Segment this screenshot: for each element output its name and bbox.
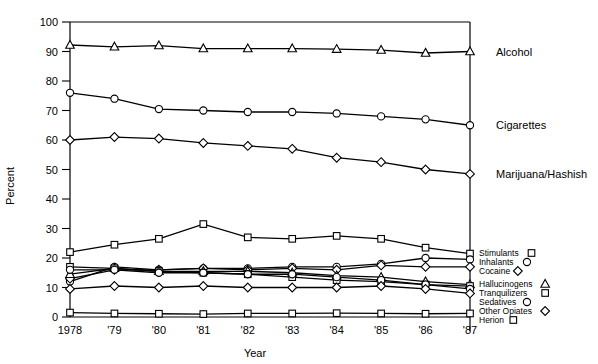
point-sedatives-79: [111, 266, 118, 273]
legend-marker-stimulants: [528, 250, 535, 257]
point-stimulants-83: [289, 236, 296, 243]
point-cigarettes-1978: [66, 89, 73, 96]
point-other-opiates-83: [288, 283, 297, 292]
series-herion: [67, 309, 474, 317]
point-herion-84: [333, 310, 340, 317]
point-marijuana-hashish-1978: [66, 136, 75, 145]
point-inhalants-86: [422, 254, 429, 261]
point-marijuana-hashish-85: [377, 158, 386, 167]
y-tick-label-10: 10: [46, 282, 58, 294]
point-sedatives-82: [244, 271, 251, 278]
point-cocaine-86: [421, 262, 430, 271]
point-sedatives-80: [155, 269, 162, 276]
series-label-alcohol: Alcohol: [496, 46, 532, 58]
series-cigarettes: [66, 89, 473, 129]
line-herion: [70, 313, 470, 314]
legend-item-herion: Herion: [479, 315, 517, 325]
point-marijuana-hashish-83: [288, 144, 297, 153]
point-cigarettes-81: [200, 107, 207, 114]
point-sedatives-1978: [66, 266, 73, 273]
legend-item-cocaine: Cocaine: [479, 266, 522, 276]
point-stimulants-80: [156, 236, 163, 243]
point-sedatives-81: [200, 269, 207, 276]
point-other-opiates-84: [332, 283, 341, 292]
legend-marker-cocaine: [513, 267, 522, 276]
point-stimulants-1978: [67, 249, 74, 256]
point-herion-83: [289, 310, 296, 317]
point-herion-80: [156, 310, 163, 317]
point-other-opiates-81: [199, 282, 208, 291]
legend-marker-hallucinogens: [541, 279, 550, 287]
point-alcohol-80: [155, 41, 164, 49]
y-tick-label-80: 80: [46, 75, 58, 87]
point-alcohol-82: [243, 44, 252, 52]
series-alcohol: [66, 40, 475, 56]
chart-container: 0102030405060708090100 1978'79'80'81'82'…: [0, 0, 598, 364]
point-stimulants-86: [422, 244, 429, 251]
y-tick-label-90: 90: [46, 46, 58, 58]
series-stimulants: [67, 221, 474, 257]
point-marijuana-hashish-80: [154, 134, 163, 143]
point-cigarettes-84: [333, 110, 340, 117]
point-other-opiates-80: [154, 283, 163, 292]
line-chart: 0102030405060708090100 1978'79'80'81'82'…: [0, 0, 598, 364]
point-alcohol-83: [288, 44, 297, 52]
point-cigarettes-85: [378, 113, 385, 120]
point-herion-82: [244, 310, 251, 317]
point-cigarettes-87: [466, 122, 473, 129]
point-sedatives-83: [289, 271, 296, 278]
line-cigarettes: [70, 93, 470, 125]
y-tick-label-70: 70: [46, 105, 58, 117]
x-tick-label-84: '84: [329, 324, 343, 336]
point-marijuana-hashish-87: [466, 170, 475, 179]
point-other-opiates-1978: [66, 285, 75, 294]
legend-marker-inhalants: [523, 258, 530, 265]
point-cigarettes-83: [289, 108, 296, 115]
point-stimulants-82: [244, 234, 251, 241]
point-stimulants-79: [111, 241, 118, 248]
y-tick-label-40: 40: [46, 193, 58, 205]
point-herion-85: [378, 310, 385, 317]
x-tick-label-80: '80: [152, 324, 166, 336]
point-marijuana-hashish-84: [332, 153, 341, 162]
y-tick-label-20: 20: [46, 252, 58, 264]
point-alcohol-1978: [66, 40, 75, 48]
series-marijuana-hashish: [66, 133, 475, 179]
series-label-cigarettes: Cigarettes: [496, 119, 547, 131]
point-sedatives-84: [333, 274, 340, 281]
point-alcohol-87: [466, 47, 475, 55]
x-axis-title: Year: [244, 347, 267, 359]
point-cigarettes-86: [422, 116, 429, 123]
point-stimulants-85: [378, 236, 385, 243]
x-tick-label-82: '82: [241, 324, 255, 336]
point-alcohol-84: [332, 45, 341, 53]
y-axis-title: Percent: [4, 167, 16, 205]
point-marijuana-hashish-81: [199, 139, 208, 148]
legend-label-herion: Herion: [479, 315, 504, 325]
point-cocaine-87: [466, 262, 475, 271]
legend-marker-tranquilizers: [542, 290, 549, 297]
point-herion-81: [200, 311, 207, 318]
series-labels: AlcoholCigarettesMarijuana/Hashish: [496, 46, 587, 180]
point-herion-86: [422, 310, 429, 317]
x-tick-label-81: '81: [196, 324, 210, 336]
point-cigarettes-82: [244, 108, 251, 115]
point-stimulants-84: [333, 233, 340, 240]
point-herion-79: [111, 310, 118, 317]
legend-marker-other-opiates: [541, 307, 550, 316]
plot-frame: [70, 22, 470, 331]
legend-label-cocaine: Cocaine: [479, 266, 510, 276]
point-cigarettes-80: [155, 105, 162, 112]
point-other-opiates-79: [110, 282, 119, 291]
point-herion-87: [467, 310, 474, 317]
point-marijuana-hashish-86: [421, 165, 430, 174]
series-layer: [66, 40, 475, 317]
point-herion-1978: [67, 309, 74, 316]
x-tick-label-86: '86: [418, 324, 432, 336]
line-alcohol: [70, 45, 470, 53]
legend: StimulantsInhalantsCocaineHallucinogensT…: [479, 248, 550, 325]
legend-marker-herion: [510, 317, 517, 324]
x-tick-label-1978: 1978: [58, 324, 82, 336]
line-stimulants: [70, 224, 470, 254]
line-marijuana-hashish: [70, 137, 470, 174]
